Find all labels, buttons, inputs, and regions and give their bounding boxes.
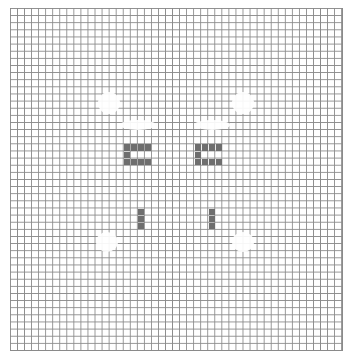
faded-region xyxy=(194,120,230,130)
filled-cell[interactable] xyxy=(202,144,208,150)
faded-region xyxy=(232,92,254,114)
filled-cell[interactable] xyxy=(131,144,137,150)
filled-cell[interactable] xyxy=(124,159,130,165)
filled-cell[interactable] xyxy=(124,144,130,150)
filled-cell[interactable] xyxy=(195,144,201,150)
filled-cell[interactable] xyxy=(145,159,151,165)
faded-region xyxy=(96,232,118,252)
filled-cell[interactable] xyxy=(138,223,144,229)
filled-cell[interactable] xyxy=(195,152,201,158)
filled-cell[interactable] xyxy=(138,144,144,150)
faded-region xyxy=(232,232,254,252)
filled-cell[interactable] xyxy=(209,144,215,150)
filled-cell[interactable] xyxy=(138,159,144,165)
filled-cell[interactable] xyxy=(145,144,151,150)
filled-cell[interactable] xyxy=(138,216,144,222)
filled-cell[interactable] xyxy=(138,209,144,215)
filled-cell[interactable] xyxy=(209,223,215,229)
faded-region xyxy=(120,120,156,130)
filled-cell[interactable] xyxy=(216,144,222,150)
filled-cell[interactable] xyxy=(209,216,215,222)
filled-cell[interactable] xyxy=(209,209,215,215)
filled-cell[interactable] xyxy=(131,159,137,165)
filled-cell[interactable] xyxy=(209,159,215,165)
filled-cell[interactable] xyxy=(202,159,208,165)
faded-region xyxy=(98,92,120,114)
filled-cell[interactable] xyxy=(216,159,222,165)
pixel-grid-board[interactable] xyxy=(10,8,343,351)
filled-cell[interactable] xyxy=(124,152,130,158)
filled-cell[interactable] xyxy=(195,159,201,165)
